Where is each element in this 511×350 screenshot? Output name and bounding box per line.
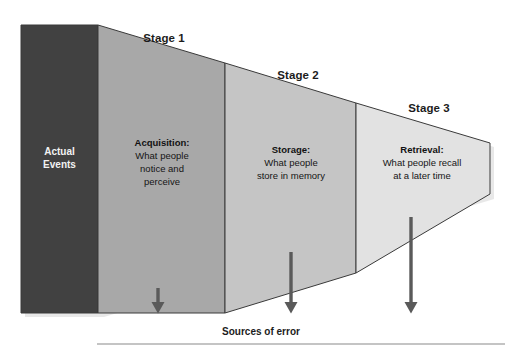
stage-2-line-1: What people [231,156,351,169]
stage-2-body: Storage: What people store in memory [231,143,351,182]
stage-1-label: Stage 1 [114,32,214,45]
memory-stages-diagram: Actual Events Stage 1 Stage 2 Stage 3 Ac… [0,0,511,350]
stage-3-body: Retrieval: What people recall at a later… [357,143,487,182]
stage-2-label: Stage 2 [248,69,348,82]
stage-1-line-1: What people [102,149,222,162]
stage-1-title: Acquisition: [102,136,222,149]
stage-2-title: Storage: [231,143,351,156]
stage-3-title: Retrieval: [357,143,487,156]
stage-3-label: Stage 3 [379,102,479,115]
stage-1-line-3: perceive [102,175,222,188]
sources-of-error-label: Sources of error [191,325,331,338]
stage-2-line-2: store in memory [231,169,351,182]
actual-events-line-1: Actual [21,145,98,158]
stage-3-line-2: at a later time [357,169,487,182]
stage-3-segment [356,103,490,273]
stage-1-body: Acquisition: What people notice and perc… [102,136,222,188]
actual-events-line-2: Events [21,158,98,171]
stage-1-line-2: notice and [102,162,222,175]
stage-3-line-1: What people recall [357,156,487,169]
actual-events-label: Actual Events [21,145,98,171]
